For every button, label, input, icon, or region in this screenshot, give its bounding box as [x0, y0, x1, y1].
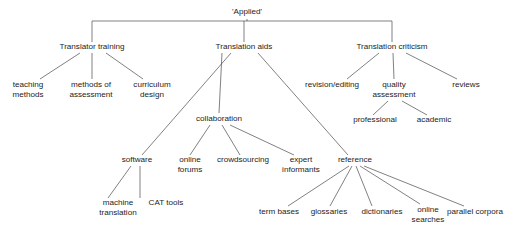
node-label-quality-assessment-l2: assessment [372, 90, 416, 99]
node-label-academic: academic [417, 115, 452, 124]
edge-collab-to-online [190, 125, 210, 155]
node-label-collaboration: collaboration [196, 114, 242, 123]
node-label-teaching-methods-l2: methods [12, 90, 43, 99]
node-label-cat-tools: CAT tools [149, 198, 184, 207]
node-label-curriculum-design-l2: design [140, 90, 164, 99]
node-label-dictionaries: dictionaries [362, 207, 403, 216]
edge-tt-to-teaching [40, 53, 80, 79]
node-label-online-searches-l2: searches [412, 215, 445, 224]
edge-ta-to-reference [258, 53, 348, 155]
node-label-reference: reference [338, 155, 373, 164]
edge-ref-to-glossaries [330, 166, 352, 206]
nodes-group: 'Applied'Translator trainingTranslation … [12, 7, 503, 224]
node-label-glossaries: glossaries [311, 207, 347, 216]
edge-qa-to-academic [402, 101, 427, 115]
node-label-machine-translation-l2: translation [99, 208, 136, 217]
edge-tc-to-reviews [406, 53, 457, 79]
node-label-translation-aids: Translation aids [216, 42, 273, 51]
applied-translation-studies-tree-diagram: 'Applied'Translator trainingTranslation … [0, 0, 514, 241]
edge-collab-to-crowdsourcing [222, 125, 240, 155]
node-label-methods-assessment-l1: methods of [71, 80, 112, 89]
node-label-teaching-methods-l1: teaching [13, 80, 44, 89]
edge-ta-to-software [142, 53, 231, 155]
edge-tc-to-revision [347, 53, 379, 79]
node-label-crowdsourcing: crowdsourcing [217, 155, 269, 164]
node-label-translator-training: Translator training [60, 42, 125, 51]
node-label-expert-informants-l2: informants [282, 165, 320, 174]
tree-diagram-canvas: 'Applied'Translator trainingTranslation … [0, 0, 514, 241]
node-label-software: software [122, 155, 153, 164]
node-label-online-searches-l1: online [417, 205, 439, 214]
node-label-root: 'Applied' [232, 7, 263, 16]
node-label-parallel-corpora: parallel corpora [447, 207, 503, 216]
node-label-methods-assessment-l2: assessment [69, 90, 113, 99]
node-label-term-bases: term bases [259, 207, 299, 216]
node-label-curriculum-design-l1: curriculum [133, 80, 171, 89]
node-label-reviews: reviews [452, 80, 479, 89]
node-label-professional: professional [353, 115, 397, 124]
edge-tc-to-quality [393, 53, 394, 79]
edge-tt-to-curriculum [106, 53, 143, 79]
node-label-online-forums-l1: online [179, 155, 201, 164]
node-label-machine-translation-l1: machine [103, 198, 134, 207]
edge-ta-to-collaboration [219, 53, 222, 113]
edge-sw-to-machine [108, 166, 131, 198]
edge-qa-to-professional [373, 101, 388, 115]
node-label-revision-editing: revision/editing [305, 80, 359, 89]
node-label-expert-informants-l1: expert [290, 155, 313, 164]
edge-collab-to-expert [230, 125, 294, 155]
node-label-quality-assessment-l1: quality [382, 80, 406, 89]
node-label-translation-criticism: Translation criticism [356, 42, 427, 51]
node-label-online-forums-l2: forums [178, 165, 203, 174]
